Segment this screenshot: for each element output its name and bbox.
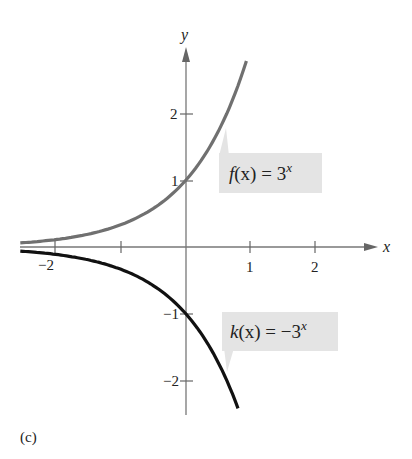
x-axis-arrow-icon (364, 243, 378, 251)
f-label: f(x) = 3x (229, 160, 292, 185)
x-axis-label: x (382, 238, 390, 255)
k-callout-pointer (224, 348, 234, 372)
k-curve (20, 251, 238, 408)
y-tick-label: 2 (170, 106, 178, 122)
f-callout-pointer (219, 128, 229, 156)
y-axis-label: y (179, 26, 189, 44)
x-tick-label: 1 (246, 259, 254, 275)
x-tick-label: 2 (311, 259, 319, 275)
figure: −2 1 2 2 1 −1 −2 x y f(x) = 3x k(x) = −3… (0, 0, 412, 459)
figure-caption: (c) (20, 429, 37, 446)
x-tick-label: −2 (38, 257, 54, 273)
y-tick-label: −1 (163, 306, 179, 322)
y-axis-arrow-icon (182, 47, 190, 62)
y-tick-label: −2 (163, 373, 179, 389)
chart: −2 1 2 2 1 −1 −2 x y f(x) = 3x k(x) = −3… (0, 0, 412, 459)
k-label: k(x) = −3x (230, 318, 307, 343)
f-curve (20, 61, 246, 243)
y-tick-label: 1 (171, 173, 179, 189)
